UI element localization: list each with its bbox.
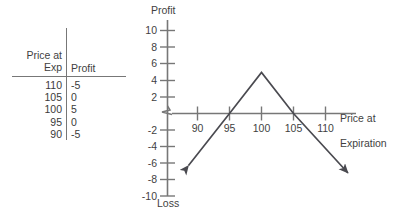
y-tick-label: -8 [148,173,157,185]
y-tick-label: -4 [148,140,157,152]
x-tick-label: 90 [192,122,204,134]
table-header-price-line2: Exp [0,61,62,73]
table-body: 110 -5 105 0 100 5 95 0 90 -5 [0,79,130,140]
cell-profit: 5 [71,103,126,115]
cell-price: 100 [0,103,62,115]
table-row: 95 0 [0,116,130,128]
y-axis-bottom-label: Loss [157,197,179,210]
table-row: 90 -5 [0,128,130,140]
table-row: 105 0 [0,91,130,103]
x-axis-tick-labels: 90 95 100 105 110 [192,122,334,134]
x-tick-label: 100 [253,122,271,134]
cell-profit: 0 [71,116,126,128]
table-header-price-line1: Price at [0,49,62,61]
y-axis-tick-labels: 10 8 6 4 2 -2 -4 -6 -8 -10 [142,24,157,202]
x-tick-label: 110 [317,122,334,134]
table-header-profit: Profit [71,62,126,74]
table-row: 110 -5 [0,79,130,91]
cell-profit: 0 [71,91,126,103]
payoff-table: Price at Exp Profit 110 -5 105 0 100 5 9… [0,28,130,140]
y-tick-label: 2 [151,91,157,103]
x-axis-label-line1: Price at [340,112,387,125]
table-row: 100 5 [0,103,130,115]
profit-loss-chart: Profit Loss Price at Expiration [140,0,416,220]
cell-price: 110 [0,79,62,91]
table-header-price-at-exp: Price at Exp [0,49,62,73]
cell-profit: -5 [71,79,126,91]
x-tick-label: 95 [224,122,236,134]
x-axis-label-line2: Expiration [340,137,387,150]
x-axis-label: Price at Expiration [340,99,387,162]
y-tick-label: 8 [151,41,157,53]
y-axis-top-label: Profit [151,4,176,17]
cell-price: 105 [0,91,62,103]
cell-profit: -5 [71,128,126,140]
y-tick-label: -6 [148,157,157,169]
y-tick-label: -10 [142,190,157,202]
y-tick-label: 4 [151,74,157,86]
y-tick-label: 10 [145,24,157,36]
cell-price: 95 [0,116,62,128]
y-tick-label: 6 [151,57,157,69]
table-header-divider [12,76,126,77]
cell-price: 90 [0,128,62,140]
y-tick-label: -2 [148,124,157,136]
x-tick-label: 105 [285,122,303,134]
